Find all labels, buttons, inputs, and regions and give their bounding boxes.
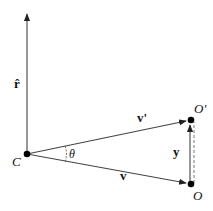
point-C	[24, 151, 31, 158]
r-hat-label: r̂	[14, 76, 20, 91]
v-label: v	[120, 168, 127, 183]
theta-label: θ	[69, 147, 75, 161]
C-label: C	[12, 154, 21, 169]
theta-arc	[65, 146, 67, 162]
v-vector	[27, 154, 186, 183]
point-O	[188, 181, 195, 188]
y-label: y	[173, 144, 180, 159]
O-label: O	[193, 188, 203, 203]
O-prime-label: O'	[194, 101, 206, 116]
v-prime-vector	[27, 121, 186, 154]
v-prime-label: v'	[137, 110, 147, 125]
vector-diagram: r̂ v' v y θ C O' O	[0, 0, 213, 211]
point-O-prime	[188, 117, 195, 124]
